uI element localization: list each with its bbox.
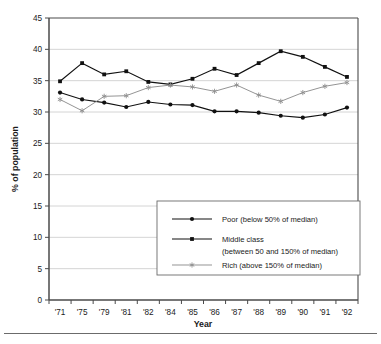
legend-label-continued: (between 50 and 150% of median) <box>222 247 339 256</box>
chart-legend: Poor (below 50% of median)Middle class(b… <box>157 201 360 275</box>
y-tick-label: 15 <box>33 202 43 211</box>
y-tick-label: 10 <box>33 233 43 242</box>
x-tick-label: '71 <box>55 308 66 317</box>
x-tick-label: '75 <box>77 308 88 317</box>
x-tick-label: '86 <box>209 308 220 317</box>
chart-background <box>0 0 381 344</box>
x-tick-label: '90 <box>297 308 308 317</box>
legend-label: Poor (below 50% of median) <box>222 215 318 224</box>
y-tick-label: 25 <box>33 139 43 148</box>
y-axis-title: % of population <box>10 126 20 192</box>
x-tick-label: '89 <box>275 308 286 317</box>
x-tick-label: '92 <box>342 308 353 317</box>
chart-figure: 051015202530354045 '71'75'79'81'82'84'85… <box>0 0 381 344</box>
x-tick-label: '82 <box>143 308 154 317</box>
x-tick-label: '91 <box>320 308 331 317</box>
x-tick-label: '88 <box>253 308 264 317</box>
y-tick-label: 20 <box>33 171 43 180</box>
x-tick-label: '87 <box>231 308 242 317</box>
x-tick-label: '85 <box>187 308 198 317</box>
x-tick-label: '84 <box>165 308 176 317</box>
y-tick-label: 0 <box>37 296 42 305</box>
legend-label: Rich (above 150% of median) <box>222 261 323 270</box>
y-tick-label: 30 <box>33 108 43 117</box>
y-tick-label: 40 <box>33 45 43 54</box>
y-tick-label: 45 <box>33 14 43 23</box>
y-tick-label: 35 <box>33 77 43 86</box>
y-tick-label: 5 <box>37 265 42 274</box>
line-chart: 051015202530354045 '71'75'79'81'82'84'85… <box>0 0 381 344</box>
x-tick-label: '79 <box>99 308 110 317</box>
legend-label: Middle class <box>222 235 264 244</box>
x-axis-title: Year <box>194 319 213 329</box>
footer-rule <box>4 333 377 334</box>
x-tick-label: '81 <box>121 308 132 317</box>
